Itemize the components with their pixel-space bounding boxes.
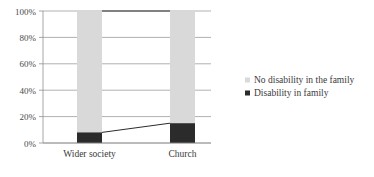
stacked-bar-chart: 100% 80% 60% 40% 20% 0% Wider society Ch…: [0, 0, 374, 177]
y-axis-label-0: 0%: [24, 139, 37, 149]
y-axis-label-40: 40%: [20, 86, 37, 96]
bar-segment-no-disability-wider-society: [77, 11, 102, 132]
bar-group-church: [170, 11, 195, 143]
legend-label-disability: Disability in family: [254, 88, 329, 98]
bar-group-wider-society: [77, 11, 102, 143]
legend-label-no-disability: No disability in the family: [254, 75, 355, 85]
x-axis-label-church: Church: [169, 149, 197, 159]
y-axis-label-60: 60%: [20, 59, 37, 69]
bar-segment-disability-church: [170, 123, 195, 143]
y-axis-label-80: 80%: [20, 33, 37, 43]
y-axis-label-100: 100%: [15, 7, 37, 17]
legend-swatch-disability: [245, 91, 250, 96]
y-axis-tick-marks: [39, 11, 43, 143]
legend-swatch-no-disability: [245, 78, 250, 83]
x-axis-labels: Wider society Church: [63, 149, 197, 159]
bar-segment-disability-wider-society: [77, 132, 102, 143]
y-axis-labels: 100% 80% 60% 40% 20% 0%: [15, 7, 37, 149]
x-axis-label-wider-society: Wider society: [63, 149, 116, 159]
bar-segment-no-disability-church: [170, 11, 195, 123]
chart-legend: No disability in the family Disability i…: [245, 75, 355, 98]
chart-canvas: 100% 80% 60% 40% 20% 0% Wider society Ch…: [0, 0, 374, 177]
y-axis-label-20: 20%: [20, 112, 37, 122]
